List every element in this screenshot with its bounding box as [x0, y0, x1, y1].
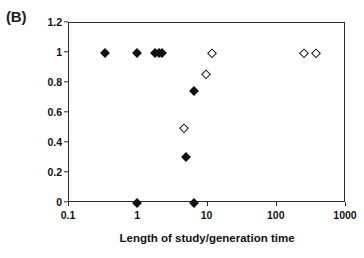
- x-tick-label: 10: [187, 209, 227, 221]
- data-point-open-diamond: [299, 48, 308, 57]
- y-tick-label: 0.4: [28, 136, 62, 148]
- x-tick-label: 0.1: [48, 209, 88, 221]
- data-point-open-diamond: [202, 69, 211, 78]
- x-tick-mark: [276, 202, 277, 206]
- y-tick-label: 0.8: [28, 76, 62, 88]
- data-point-open-diamond: [180, 123, 189, 132]
- data-point-filled-diamond: [132, 48, 142, 58]
- x-tick-mark: [345, 202, 346, 206]
- y-tick-label: 0: [28, 196, 62, 208]
- x-tick-mark: [68, 202, 69, 206]
- y-tick-label: 0.6: [28, 106, 62, 118]
- plot-area: [68, 22, 345, 202]
- x-axis-title: Length of study/generation time: [68, 232, 346, 244]
- data-point-filled-diamond: [189, 86, 199, 96]
- x-tick-label: 100: [256, 209, 296, 221]
- data-point-open-diamond: [311, 48, 320, 57]
- panel-label: (B): [6, 8, 26, 25]
- y-tick-label: 1: [28, 46, 62, 58]
- x-tick-label: 1: [117, 209, 157, 221]
- figure-panel-b: (B) Proportion of species showing corrid…: [0, 0, 364, 258]
- data-point-open-diamond: [207, 48, 216, 57]
- y-tick-label: 0.2: [28, 166, 62, 178]
- data-point-filled-diamond: [181, 152, 191, 162]
- y-tick-label: 1.2: [28, 16, 62, 28]
- data-point-filled-diamond: [132, 198, 142, 208]
- data-point-filled-diamond: [189, 198, 199, 208]
- x-tick-mark: [207, 202, 208, 206]
- x-tick-label: 1000: [325, 209, 364, 221]
- data-point-filled-diamond: [100, 48, 110, 58]
